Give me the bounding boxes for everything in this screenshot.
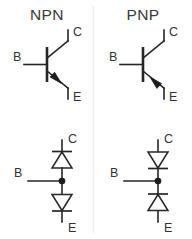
pnp-eq-terminal-label-collector: C — [164, 132, 173, 146]
pnp-diode-equivalent: C B E — [110, 132, 173, 235]
npn-eq-terminal-label-collector: C — [68, 132, 77, 146]
pnp-eq-lower-diode-triangle — [148, 195, 168, 211]
npn-eq-lower-diode-triangle — [52, 195, 72, 211]
figure-canvas: NPN PNP C B E — [0, 0, 192, 239]
npn-transistor-symbol: C B E — [13, 25, 82, 104]
npn-collector-diagonal — [47, 41, 68, 58]
npn-terminal-label-collector: C — [73, 25, 82, 39]
pnp-terminal-label-collector: C — [169, 25, 178, 39]
pnp-eq-terminal-label-base: B — [110, 166, 118, 180]
pnp-terminal-label-base: B — [109, 50, 117, 64]
pnp-collector-diagonal — [143, 41, 164, 58]
pnp-emitter-arrowhead — [150, 77, 162, 88]
npn-eq-terminal-label-emitter: E — [68, 221, 76, 235]
column-title-pnp: PNP — [126, 6, 159, 23]
npn-eq-terminal-label-base: B — [14, 166, 22, 180]
column-title-npn: NPN — [30, 6, 64, 23]
npn-terminal-label-emitter: E — [73, 90, 81, 104]
transistor-symbols-figure: NPN PNP C B E — [0, 0, 192, 239]
pnp-eq-terminal-label-emitter: E — [164, 221, 172, 235]
npn-diode-equivalent: C B E — [14, 132, 77, 235]
pnp-eq-base-junction-dot — [155, 178, 162, 185]
pnp-eq-upper-diode-triangle — [148, 152, 168, 168]
pnp-terminal-label-emitter: E — [169, 90, 177, 104]
pnp-transistor-symbol: C B E — [109, 25, 178, 104]
npn-terminal-label-base: B — [13, 50, 21, 64]
npn-eq-base-junction-dot — [59, 178, 66, 185]
npn-eq-upper-diode-triangle — [52, 152, 72, 168]
